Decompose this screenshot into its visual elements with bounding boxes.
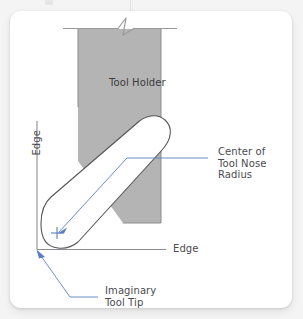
tool-tip-leader-line xyxy=(38,251,99,297)
label-edge-horizontal: Edge xyxy=(173,243,199,255)
label-tool-holder: Tool Holder xyxy=(109,77,166,89)
tool-tip-leader-arrowhead-icon xyxy=(37,250,46,259)
figure-card: Tool Holder Center of Tool Nose Radius E… xyxy=(10,11,292,308)
label-center-of-tool-nose-radius: Center of Tool Nose Radius xyxy=(218,146,292,181)
imaginary-tool-tip-annotation xyxy=(37,250,99,298)
top-edge-artifact xyxy=(45,0,53,5)
label-imaginary-tool-tip: Imaginary Tool Tip xyxy=(105,285,156,308)
label-edge-vertical: Edge xyxy=(31,113,43,173)
